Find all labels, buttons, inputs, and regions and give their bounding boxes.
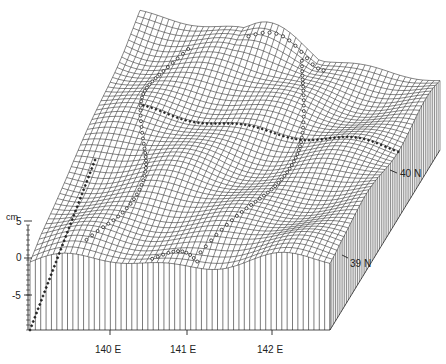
front-face	[30, 252, 330, 330]
x-tick-141e: 141 E	[170, 344, 196, 355]
x-tick-142e: 142 E	[257, 344, 283, 355]
z-tick-0: 0	[16, 252, 22, 263]
surface-mesh	[30, 10, 440, 269]
y-tick-39n: 39 N	[350, 258, 371, 269]
z-tick-minus5: -5	[12, 290, 21, 301]
y-tick-40n: 40 N	[400, 168, 421, 179]
surface-plot	[0, 0, 446, 364]
x-tick-140e: 140 E	[95, 344, 121, 355]
z-tick-5: 5	[16, 216, 22, 227]
